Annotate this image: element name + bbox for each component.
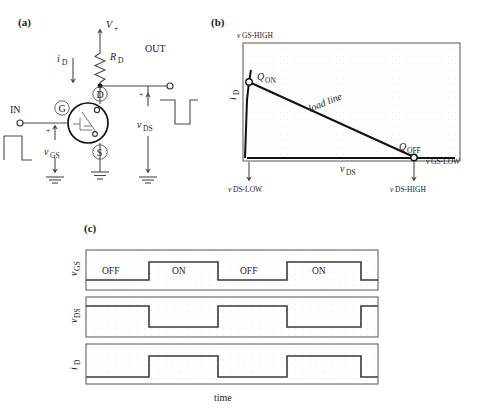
vds-low-label: v	[228, 185, 232, 194]
q-on-sub: ON	[265, 76, 276, 85]
panel-b-loadline: (b) v GS-HIGH v GS-LOW Q ON Q OFF load l…	[211, 16, 461, 194]
gate-badge-label: G	[58, 103, 65, 114]
vgs-state-1: ON	[172, 266, 186, 276]
vgs-label: v	[44, 146, 49, 157]
supply-label: V	[106, 19, 114, 30]
vds-high-sub: DS-HIGH	[395, 185, 426, 194]
id-row-label: i	[68, 367, 79, 370]
panel-a-circuit: (a) V + R D i D OUT D	[4, 16, 198, 183]
q-off-sub: OFF	[407, 146, 421, 155]
vds-label: v	[137, 119, 142, 130]
vgs-state-0: OFF	[102, 266, 119, 276]
mosfet-internal-symbol	[73, 107, 100, 136]
q-off-marker[interactable]	[411, 154, 417, 160]
q-off-label: Q	[399, 141, 407, 152]
vds-row-sub: DS	[73, 308, 82, 318]
vds-low-sub: DS-LOW	[233, 185, 263, 194]
time-axis-label: time	[214, 392, 232, 403]
loadline-x-axis-label: v	[340, 163, 345, 174]
loadline-y-axis-sub: D	[232, 89, 241, 95]
ground-icon-right	[139, 177, 157, 183]
drain-badge-label: D	[97, 89, 104, 100]
out-label: OUT	[145, 43, 166, 54]
ground-icon-left	[46, 177, 64, 183]
vgs-state-3: ON	[312, 266, 326, 276]
q-on-marker[interactable]	[246, 79, 252, 85]
drain-current-sub: D	[62, 58, 68, 67]
vds-plus-sign: +	[139, 90, 143, 99]
out-terminal[interactable]	[167, 83, 173, 89]
id-row-sub: D	[73, 359, 82, 365]
supply-sub: +	[114, 24, 118, 33]
resistor-label: R	[109, 51, 116, 62]
output-pulse-waveform-icon	[160, 100, 198, 124]
panel-a-label: (a)	[18, 16, 31, 29]
id-grid	[86, 344, 378, 384]
drain-current-label: i	[57, 53, 60, 64]
timing-row-id: i D	[68, 344, 378, 384]
panel-c-timing: (c) v GS OFF ON OFF ON v DS i	[68, 222, 378, 403]
figure-svg: (a) V + R D i D OUT D	[0, 0, 482, 408]
resistor-icon	[95, 50, 105, 86]
input-pulse-waveform-icon	[4, 136, 32, 160]
vgs-grid	[86, 250, 378, 290]
in-label: IN	[10, 104, 21, 115]
vgs-plus-sign: +	[46, 126, 50, 135]
ground-icon-source	[91, 163, 109, 179]
panel-b-label: (b)	[211, 16, 225, 29]
loadline-y-axis-label: i	[227, 97, 238, 100]
loadline-x-axis-sub: DS	[346, 168, 356, 177]
mosfet-transistor-icon	[68, 103, 108, 143]
timing-row-vgs: v GS OFF ON OFF ON	[68, 250, 378, 290]
figure-root: (a) V + R D i D OUT D	[0, 0, 482, 408]
panel-c-label: (c)	[84, 222, 97, 235]
in-terminal[interactable]	[17, 120, 23, 126]
timing-row-vds: v DS	[68, 297, 378, 337]
vds-sub: DS	[143, 124, 153, 133]
loadline-grid	[243, 43, 460, 161]
q-on-label: Q	[257, 71, 265, 82]
vgs-row-sub: GS	[73, 261, 82, 271]
source-badge-label: S	[97, 147, 103, 158]
resistor-sub: D	[118, 56, 124, 65]
vds-grid	[86, 297, 378, 337]
vds-high-label: v	[390, 185, 394, 194]
vgs-high-label: v	[237, 31, 241, 40]
vgs-state-2: OFF	[240, 266, 257, 276]
vgs-high-sub: GS-HIGH	[242, 31, 273, 40]
